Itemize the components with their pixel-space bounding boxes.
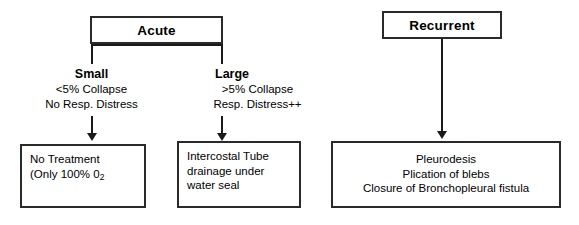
flowchart-canvas: Acute Small <5% Collapse No Resp. Distre… [0,0,579,225]
arrow-recurrent-head-icon [437,131,447,139]
node-recurrent-treatment: Pleurodesis Plication of blebs Closure o… [331,141,561,208]
arrow-small-head-icon [87,133,97,141]
recurrent-treatment-line-3: Closure of Bronchopleural fistula [337,181,555,196]
no-treatment-line-1: No Treatment [30,152,144,167]
acute-bracket-stem-large [221,44,223,64]
branch-large-criterion-1: >5% Collapse [175,82,340,97]
intercostal-line-3: water seal [187,178,299,193]
branch-small-title: Small [0,66,183,82]
branch-large: Large >5% Collapse Resp. Distress++ [175,66,340,112]
node-acute: Acute [90,16,223,44]
branch-small-criterion-2: No Resp. Distress [0,97,183,112]
intercostal-line-2: drainage under [187,164,299,179]
node-recurrent: Recurrent [382,11,502,39]
arrow-recurrent-shaft [441,39,443,132]
branch-large-title: Large [175,66,340,82]
no-treatment-subscript: 2 [100,172,105,182]
branch-small: Small <5% Collapse No Resp. Distress [0,66,183,112]
branch-large-criterion-2: Resp. Distress++ [175,97,340,112]
acute-bracket-horizontal [91,44,222,46]
node-intercostal-tube: Intercostal Tube drainage under water se… [177,141,301,208]
node-acute-label: Acute [137,23,176,38]
node-no-treatment: No Treatment (Only 100% 02 [20,144,146,208]
intercostal-line-1: Intercostal Tube [187,149,299,164]
recurrent-treatment-line-2: Plication of blebs [337,167,555,182]
no-treatment-line-2-text: (Only 100% 0 [30,168,100,180]
branch-small-criterion-1: <5% Collapse [0,82,183,97]
arrow-large-head-icon [217,133,227,141]
no-treatment-line-2: (Only 100% 02 [30,167,144,183]
recurrent-treatment-line-1: Pleurodesis [337,152,555,167]
node-recurrent-label: Recurrent [409,18,475,33]
acute-bracket-stem-small [91,44,93,64]
